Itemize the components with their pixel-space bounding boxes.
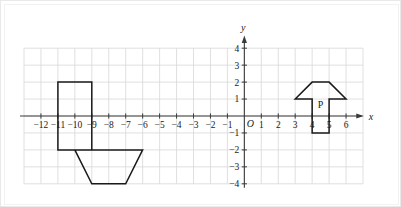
y-tick-label: −2	[229, 145, 239, 155]
y-axis-name: y	[240, 22, 246, 33]
x-tick-label: −7	[121, 120, 131, 130]
y-tick-label: −4	[229, 179, 239, 189]
plot-area: −12−11−10−9−8−7−6−5−4−3−2−11234564321−1−…	[1, 1, 401, 207]
x-tick-label: −6	[138, 120, 148, 130]
x-tick-label: −8	[104, 120, 114, 130]
axis-names: xy	[240, 22, 374, 122]
origin-label: O	[247, 118, 254, 129]
y-tick-label: 2	[235, 78, 240, 88]
x-tick-label: −4	[171, 120, 181, 130]
x-tick-label: −10	[67, 120, 82, 130]
y-tick-label: 1	[235, 94, 240, 104]
y-tick-label: 4	[235, 44, 240, 54]
shape-label-p: P	[318, 99, 324, 110]
x-axis-name: x	[368, 111, 374, 122]
x-tick-label: −5	[155, 120, 165, 130]
x-tick-label: −12	[34, 120, 49, 130]
x-tick-label: 3	[293, 120, 298, 130]
x-tick-label: 2	[276, 120, 281, 130]
y-axis-arrowhead	[242, 35, 247, 43]
y-tick-label: −1	[229, 128, 239, 138]
shape-labels: P	[318, 99, 324, 110]
x-tick-label: 1	[259, 120, 264, 130]
x-tick-label: −2	[205, 120, 215, 130]
y-tick-label: −3	[229, 162, 239, 172]
coordinate-plane-figure: −12−11−10−9−8−7−6−5−4−3−2−11234564321−1−…	[0, 0, 401, 207]
x-tick-label: −3	[188, 120, 198, 130]
x-tick-label: 6	[344, 120, 349, 130]
y-tick-label: 3	[235, 61, 240, 71]
